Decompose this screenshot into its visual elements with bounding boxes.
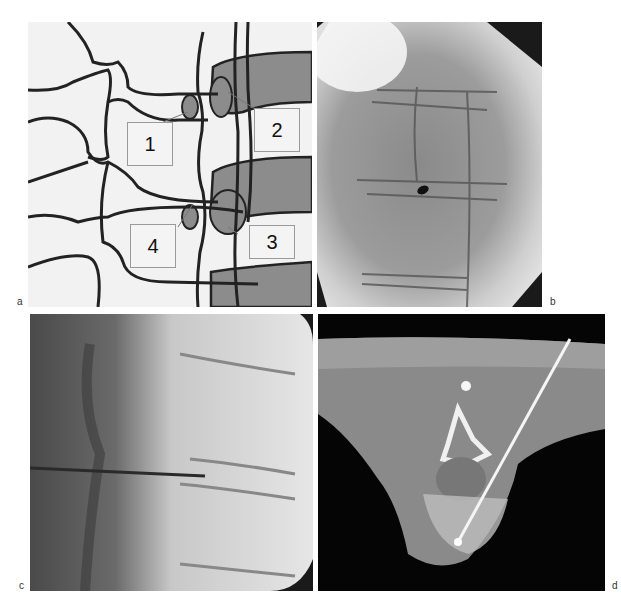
panel-a-schematic: 1 2 3 4 bbox=[28, 22, 312, 307]
callout-2: 2 bbox=[254, 108, 300, 152]
ct-axial-image bbox=[318, 314, 605, 591]
panel-label-c: c bbox=[19, 580, 24, 591]
panel-label-a: a bbox=[17, 296, 23, 307]
panel-d-ct bbox=[318, 314, 605, 591]
callout-3: 3 bbox=[249, 225, 295, 259]
panel-label-b: b bbox=[550, 296, 556, 307]
fluoroscopy-image-oblique bbox=[317, 22, 542, 307]
panel-label-d: d bbox=[612, 580, 618, 591]
fluoroscopy-image-lateral bbox=[30, 314, 313, 591]
callout-4: 4 bbox=[130, 224, 176, 268]
callout-1: 1 bbox=[127, 122, 173, 166]
panel-b-fluoroscopy bbox=[317, 22, 542, 307]
panel-c-fluoroscopy bbox=[30, 314, 313, 591]
